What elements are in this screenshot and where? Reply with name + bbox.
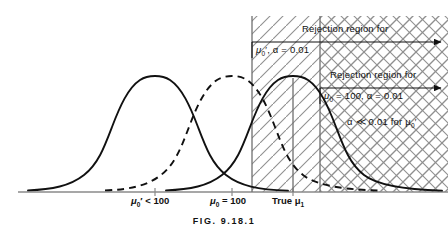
figure-caption: FIG. 9.18.1 (0, 216, 448, 226)
axis-label-text: = 100 (219, 195, 246, 206)
annotation-rejection-region-mu0-line1: Rejection region for (330, 70, 416, 80)
alpha-clause: = 100, α = 0.01 (333, 90, 403, 101)
annotation-rejection-region-mu0-prime-line2: μ0′, α = 0.01 (256, 45, 309, 55)
true-mu-text: True μ (272, 195, 301, 206)
axis-label-mu0-prime-lt-100: μ0′ < 100 (131, 196, 169, 206)
annotation-alpha-much-less-than: α ≪ 0.01 for μ0′ (347, 117, 417, 127)
annotation-rejection-region-mu0-line2: μ0 = 100, α = 0.01 (324, 91, 403, 101)
curve-mu0-prime (28, 76, 288, 191)
axis-label-true-mu1: True μ1 (272, 196, 304, 206)
annotation-rejection-region-mu0-prime-line1: Rejection region for (302, 24, 388, 34)
alpha-inequality: α ≪ 0.01 for μ (347, 116, 411, 127)
mu-subscript: 1 (301, 201, 305, 208)
prime-mark: ′ (415, 117, 417, 127)
axis-label-mu0-eq-100: μ0 = 100 (210, 196, 246, 206)
alpha-clause: , α = 0.01 (267, 44, 309, 55)
axis-label-text: < 100 (143, 195, 170, 206)
figure-container: Rejection region for μ0′, α = 0.01 Rejec… (0, 0, 448, 238)
